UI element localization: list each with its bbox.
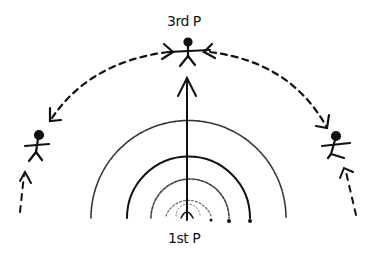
right-person-figure: [322, 132, 350, 158]
upward-arrow: [178, 78, 196, 220]
first-person-label: 1st P: [168, 230, 200, 246]
arc-medium: [151, 179, 229, 218]
dashed-arrow-to-right: [204, 44, 329, 128]
concentric-arcs: [91, 121, 286, 223]
arc-outer: [91, 121, 286, 218]
left-person-figure: [25, 131, 49, 161]
arc-large: [127, 157, 250, 219]
right-upward-arrow: [340, 168, 356, 215]
dashed-arrow-to-left: [50, 44, 173, 121]
third-person-label: 3rd P: [167, 13, 201, 29]
left-upward-arrow: [20, 172, 31, 212]
arc-small: [166, 200, 211, 216]
